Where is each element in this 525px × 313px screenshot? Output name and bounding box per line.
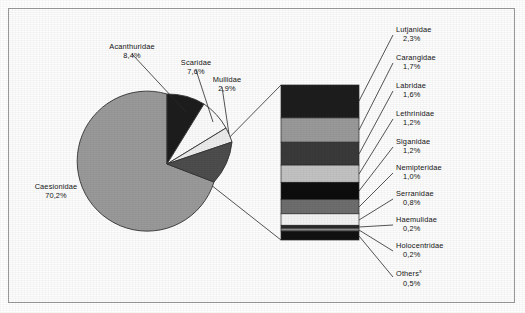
bar-segment-holocentridae — [281, 228, 359, 231]
pie-chart — [77, 91, 232, 231]
bar-label-others: Othersx 0,5% — [396, 267, 422, 288]
bar-label-siganidae: Siganidae 1,2% — [396, 137, 430, 155]
bar-segment-lutjanidae — [281, 85, 359, 118]
bar-label-leader-lines — [359, 35, 393, 277]
bar-label-serranidae: Serranidae 0,8% — [396, 189, 434, 207]
bar-segment-carangidae — [281, 118, 359, 142]
chart-canvas — [0, 0, 525, 313]
pie-label-mullidae: Mullidae 2,9% — [192, 75, 262, 93]
bar-segment-siganidae — [281, 182, 359, 199]
pie-label-scaridae: Scaridae 7,6% — [160, 58, 232, 76]
bar-segment-others — [281, 231, 359, 240]
bar-segment-nemipteridae — [281, 200, 359, 214]
bar-label-haemulidae: Haemulidae 0,2% — [396, 215, 437, 233]
bar-label-lethrinidae: Lethrinidae 1,2% — [396, 109, 434, 127]
others-footnote-marker: x — [419, 268, 422, 274]
bar-label-nemipteridae: Nemipteridae 1,0% — [396, 163, 442, 181]
bar-label-holocentridae: Holocentridae 0,2% — [396, 241, 444, 259]
bar-label-labridae: Labridae 1,6% — [396, 81, 426, 99]
bar-label-carangidae: Carangidae 1,7% — [396, 53, 436, 71]
stacked-bar — [281, 85, 359, 240]
bar-segment-serranidae — [281, 214, 359, 226]
pie-label-caesionidae: Caesionidae 70,2% — [8, 182, 104, 200]
bar-label-lutjanidae: Lutjanidae 2,3% — [396, 25, 432, 43]
bar-segment-lethrinidae — [281, 165, 359, 182]
bar-segment-haemulidae — [281, 225, 359, 228]
bar-segment-labridae — [281, 142, 359, 165]
